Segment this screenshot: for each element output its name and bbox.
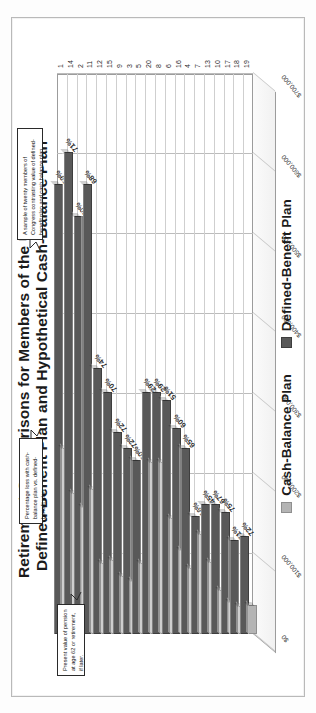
chart-figure: Retirement Comparisons for Members of th… bbox=[13, 20, 301, 692]
category-tick-label: 18 bbox=[233, 46, 240, 68]
bar-top-face bbox=[130, 455, 133, 635]
depth-gridline bbox=[253, 152, 275, 171]
bar-top-face bbox=[238, 531, 241, 635]
category-tick-label: 19 bbox=[243, 46, 250, 68]
category-tick-label: 4 bbox=[184, 46, 191, 68]
callout-sample-description: A sample of twenty members of Congress c… bbox=[17, 128, 43, 240]
bar-top-face bbox=[52, 179, 55, 635]
bar-top-face bbox=[209, 499, 212, 635]
category-tick-label: 8 bbox=[155, 46, 162, 68]
bar-top-face bbox=[62, 147, 65, 635]
category-tick-label: 14 bbox=[67, 46, 74, 68]
category-tick-label: 1 bbox=[57, 46, 64, 68]
bar-top-face bbox=[101, 387, 104, 635]
bar-top-face bbox=[228, 535, 231, 635]
depth-gridline bbox=[253, 632, 275, 651]
legend-item: Cash-Balance Plan bbox=[279, 374, 294, 513]
category-tick-label: 7 bbox=[194, 46, 201, 68]
depth-gridline bbox=[253, 72, 275, 91]
category-tick-label: 3 bbox=[126, 46, 133, 68]
rotated-figure-viewport: Retirement Comparisons for Members of th… bbox=[11, 17, 303, 695]
callout-present-value: Present value of pension at age 62 or re… bbox=[57, 604, 85, 676]
category-tick-label: 12 bbox=[96, 46, 103, 68]
bar-top-face bbox=[121, 443, 124, 635]
bar-top-face bbox=[189, 511, 192, 635]
callout-percentage-loss: Percentage loss with cash-balance plan v… bbox=[19, 438, 43, 524]
bar-top-face bbox=[111, 427, 114, 635]
chart-title-line-1: Retirement Comparisons for Members of th… bbox=[15, 20, 33, 692]
category-tick-label: 6 bbox=[165, 46, 172, 68]
chart-legend: Cash-Balance PlanDefined-Benefit Plan bbox=[279, 20, 294, 692]
category-tick-label: 2 bbox=[77, 46, 84, 68]
category-tick-label: 11 bbox=[86, 46, 93, 68]
category-tick-label: 17 bbox=[224, 46, 231, 68]
category-tick-label: 10 bbox=[214, 46, 221, 68]
bar-top-face bbox=[140, 387, 143, 635]
plot-area: 59%71%70%68%74%70%72%72%60%29%29%51%60%6… bbox=[57, 74, 253, 634]
legend-item: Defined-Benefit Plan bbox=[279, 199, 294, 348]
category-tick-label: 16 bbox=[175, 46, 182, 68]
category-tick-label: 13 bbox=[204, 46, 211, 68]
legend-label: Defined-Benefit Plan bbox=[279, 199, 294, 331]
bar-top-face bbox=[199, 499, 202, 635]
legend-swatch bbox=[281, 337, 292, 348]
bar-top-face bbox=[150, 387, 153, 635]
category-tick-label: 5 bbox=[135, 46, 142, 68]
depth-gridline bbox=[253, 552, 275, 571]
bar-top-face bbox=[179, 443, 182, 635]
bar-cash-balance bbox=[248, 605, 257, 634]
bar-top-face bbox=[91, 363, 94, 635]
scanned-page: Retirement Comparisons for Members of th… bbox=[0, 0, 316, 713]
legend-label: Cash-Balance Plan bbox=[279, 374, 294, 496]
category-tick-label: 20 bbox=[145, 46, 152, 68]
depth-gridline bbox=[253, 472, 275, 491]
depth-gridline bbox=[253, 232, 275, 251]
bar-top-face bbox=[81, 179, 84, 635]
bar-top-face bbox=[219, 507, 222, 635]
plot-depth-plate bbox=[253, 73, 276, 653]
depth-gridline bbox=[253, 392, 275, 411]
category-tick-label: 15 bbox=[106, 46, 113, 68]
category-tick-label: 9 bbox=[116, 46, 123, 68]
depth-gridline bbox=[253, 312, 275, 331]
bar-top-face bbox=[72, 211, 75, 635]
bar-top-face bbox=[170, 423, 173, 635]
bar-top-face bbox=[160, 395, 163, 635]
legend-swatch bbox=[281, 502, 292, 513]
chart-title-line-2: Defined-Benefit Plan and Hypothetical Ca… bbox=[33, 20, 51, 692]
